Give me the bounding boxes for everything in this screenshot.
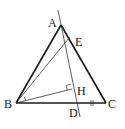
triangle-diagram: A B C D E H: [0, 0, 125, 129]
angle-arc-b: [24, 97, 26, 101]
label-h: H: [77, 84, 86, 98]
label-e: E: [75, 35, 82, 49]
label-b: B: [4, 97, 12, 111]
line-ad-extended: [58, 10, 80, 117]
side-ab: [16, 25, 61, 103]
label-c: C: [108, 97, 116, 111]
label-d: D: [69, 106, 78, 120]
label-a: A: [48, 16, 57, 30]
segment-be: [16, 38, 69, 103]
segment-bh: [16, 89, 72, 103]
